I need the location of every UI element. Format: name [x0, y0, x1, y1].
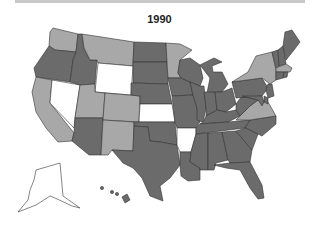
state-ri [283, 72, 288, 78]
state-fl [214, 162, 264, 199]
state-wy [95, 63, 133, 95]
state-ny [232, 52, 276, 84]
state-co [103, 93, 140, 122]
state-hi-island [110, 190, 113, 193]
state-wa [49, 28, 78, 52]
state-hi [122, 194, 130, 203]
state-nd [133, 42, 167, 62]
us-map [0, 0, 319, 233]
state-hi-island [115, 192, 118, 195]
state-me [283, 30, 300, 60]
state-hi-island [100, 186, 103, 189]
state-or [34, 46, 76, 82]
state-nm [101, 120, 134, 155]
state-ks [139, 104, 175, 122]
state-ct [276, 72, 284, 80]
state-az [72, 118, 103, 155]
state-nj [266, 84, 274, 98]
state-sd [133, 62, 168, 84]
state-ak [18, 163, 80, 212]
